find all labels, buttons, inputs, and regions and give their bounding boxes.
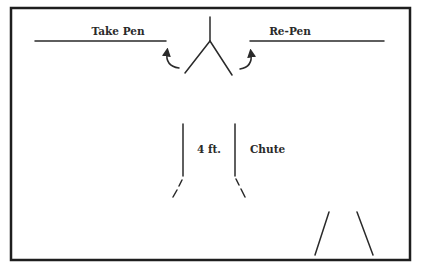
funnel-right-wall (357, 212, 373, 255)
gate-right-branch (210, 41, 232, 75)
pen-diagram: Take Pen Re-Pen 4 ft. Chute (0, 0, 421, 266)
arrow-to-take-pen-icon (167, 52, 179, 68)
chute-left-flare-2 (173, 190, 177, 197)
enclosure-frame (11, 8, 410, 260)
chute-left-flare-1 (179, 180, 182, 186)
chute-label: Chute (250, 143, 285, 155)
gate-left-branch (185, 41, 210, 73)
funnel-left-wall (315, 212, 329, 255)
chute (173, 124, 245, 197)
arrow-to-re-pen-icon (240, 53, 251, 69)
chute-right-flare-1 (236, 179, 239, 185)
chute-right-flare-2 (241, 189, 245, 197)
chute-width-label: 4 ft. (197, 143, 221, 155)
take-pen-label: Take Pen (91, 25, 145, 37)
re-pen-label: Re-Pen (269, 25, 311, 37)
sorting-gate (185, 17, 232, 75)
